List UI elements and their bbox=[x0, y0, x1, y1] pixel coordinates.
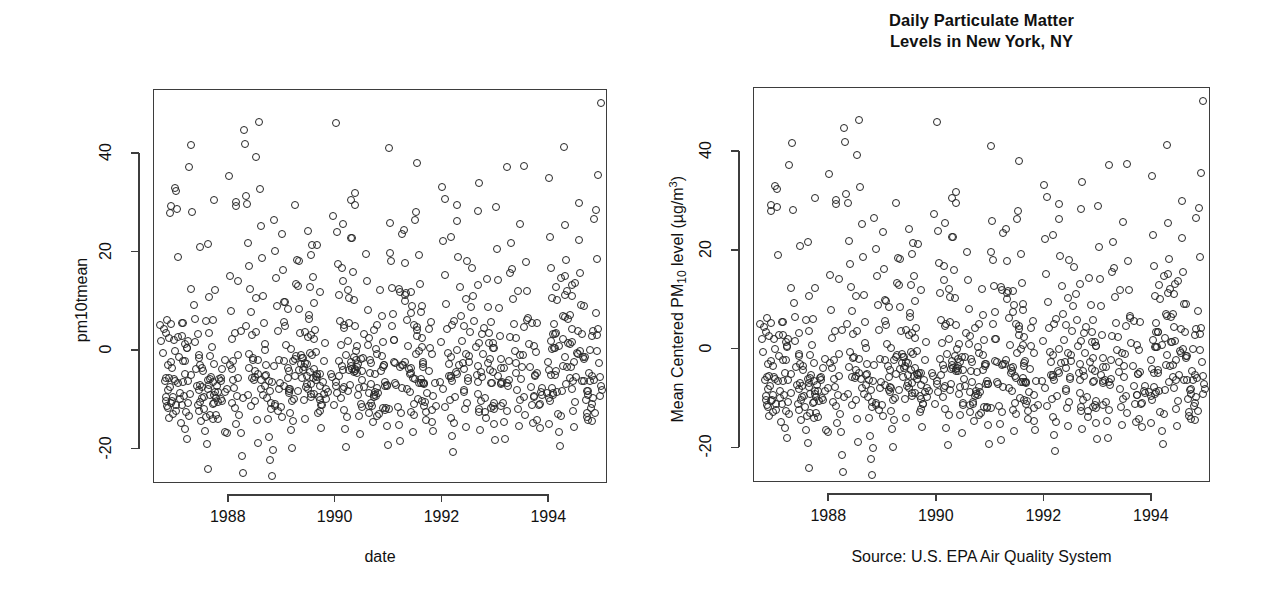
y-tick-label-20: 20 bbox=[697, 229, 715, 269]
data-point bbox=[513, 386, 521, 394]
data-point bbox=[1199, 97, 1207, 105]
data-point bbox=[449, 448, 457, 456]
data-point bbox=[968, 358, 976, 366]
data-point bbox=[1125, 286, 1133, 294]
data-point bbox=[1043, 402, 1051, 410]
data-point bbox=[910, 272, 918, 280]
data-point bbox=[758, 335, 766, 343]
data-point bbox=[985, 440, 993, 448]
data-point bbox=[527, 383, 535, 391]
data-point bbox=[1105, 161, 1113, 169]
data-point bbox=[987, 248, 995, 256]
data-point bbox=[386, 249, 394, 257]
data-point bbox=[253, 416, 261, 424]
y-tick-0 bbox=[131, 349, 139, 351]
data-point bbox=[166, 383, 174, 391]
data-point bbox=[595, 359, 603, 367]
data-point bbox=[418, 343, 426, 351]
data-point bbox=[1064, 349, 1072, 357]
data-point bbox=[819, 364, 827, 372]
data-point bbox=[278, 413, 286, 421]
data-point bbox=[339, 220, 347, 228]
data-point bbox=[190, 301, 198, 309]
data-point bbox=[411, 216, 419, 224]
data-point bbox=[1159, 440, 1167, 448]
data-point bbox=[378, 352, 386, 360]
data-point bbox=[802, 316, 810, 324]
data-point bbox=[996, 420, 1004, 428]
data-point bbox=[858, 220, 866, 228]
data-point bbox=[569, 407, 577, 415]
data-point bbox=[1178, 234, 1186, 242]
data-point bbox=[257, 222, 265, 230]
data-point bbox=[1009, 287, 1017, 295]
data-point bbox=[1118, 421, 1126, 429]
data-point bbox=[831, 327, 839, 335]
x-tick-label-1992: 1992 bbox=[406, 508, 476, 526]
data-point bbox=[570, 423, 578, 431]
data-point bbox=[824, 384, 832, 392]
data-point bbox=[1003, 257, 1011, 265]
data-point bbox=[229, 376, 237, 384]
data-point bbox=[1136, 368, 1144, 376]
data-point bbox=[203, 440, 211, 448]
data-point bbox=[355, 412, 363, 420]
data-point bbox=[379, 363, 387, 371]
data-point bbox=[1163, 141, 1171, 149]
data-point bbox=[584, 416, 592, 424]
data-point bbox=[1148, 396, 1156, 404]
data-point bbox=[879, 228, 887, 236]
data-point bbox=[575, 236, 583, 244]
data-point bbox=[826, 271, 834, 279]
data-point bbox=[218, 365, 226, 373]
data-point bbox=[1172, 356, 1180, 364]
data-point bbox=[1163, 351, 1171, 359]
data-point bbox=[552, 329, 560, 337]
data-point bbox=[827, 306, 835, 314]
data-point bbox=[580, 355, 588, 363]
data-point bbox=[259, 292, 267, 300]
data-point bbox=[196, 398, 204, 406]
data-point bbox=[844, 199, 852, 207]
data-point bbox=[366, 369, 374, 377]
data-point bbox=[1194, 407, 1202, 415]
data-point bbox=[241, 140, 249, 148]
data-point bbox=[805, 464, 813, 472]
data-point bbox=[945, 335, 953, 343]
data-point bbox=[1111, 293, 1119, 301]
data-point bbox=[208, 343, 216, 351]
data-point bbox=[1077, 337, 1085, 345]
data-point bbox=[517, 375, 525, 383]
x-tick-1992 bbox=[1043, 493, 1045, 501]
data-point bbox=[467, 303, 475, 311]
data-point bbox=[1084, 407, 1092, 415]
data-point bbox=[533, 416, 541, 424]
data-point bbox=[1109, 238, 1117, 246]
data-point bbox=[252, 153, 260, 161]
y-tick-label--20: -20 bbox=[97, 428, 115, 468]
data-point bbox=[185, 412, 193, 420]
data-point bbox=[1196, 253, 1204, 261]
data-point bbox=[317, 424, 325, 432]
data-point bbox=[268, 472, 276, 480]
data-point bbox=[1050, 320, 1058, 328]
data-point bbox=[908, 250, 916, 258]
data-point bbox=[1174, 397, 1182, 405]
data-point bbox=[1130, 382, 1138, 390]
data-point bbox=[1030, 349, 1038, 357]
data-point bbox=[428, 418, 436, 426]
data-point bbox=[437, 338, 445, 346]
data-point bbox=[965, 340, 973, 348]
data-point bbox=[906, 313, 914, 321]
data-point bbox=[1197, 169, 1205, 177]
data-point bbox=[887, 407, 895, 415]
data-point bbox=[1009, 308, 1017, 316]
panel-right: Daily Particulate Matter Levels in New Y… bbox=[638, 0, 1276, 606]
data-point bbox=[772, 406, 780, 414]
data-point bbox=[310, 365, 318, 373]
data-point bbox=[940, 276, 948, 284]
data-point bbox=[453, 346, 461, 354]
data-point bbox=[843, 320, 851, 328]
data-point bbox=[450, 419, 458, 427]
data-point bbox=[230, 384, 238, 392]
